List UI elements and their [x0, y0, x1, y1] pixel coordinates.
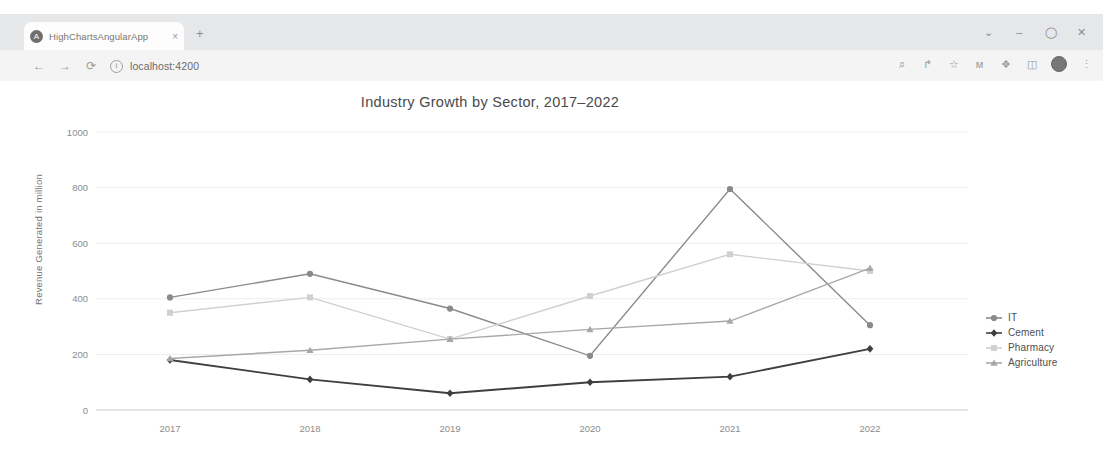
site-info-icon[interactable]: i [110, 60, 123, 73]
x-tick-label: 2018 [299, 423, 320, 434]
series-line [170, 254, 870, 339]
data-point[interactable] [167, 310, 173, 316]
x-tick-label: 2019 [439, 423, 460, 434]
legend-marker-icon [985, 328, 1003, 338]
legend-marker-icon [985, 358, 1003, 368]
data-point[interactable] [307, 294, 313, 300]
legend-item-pharmacy[interactable]: Pharmacy [985, 340, 1057, 355]
angular-logo-icon: A [30, 30, 43, 43]
window-minimize-button[interactable]: ⌄ [975, 22, 1001, 42]
x-tick-label: 2020 [579, 423, 600, 434]
sidebar-icon[interactable]: ◫ [1025, 58, 1038, 71]
browser-toolbar-icons: ⌕ ↱ ☆ ᴍ ❖ ◫ ⋮ [895, 56, 1093, 72]
plot-area: 02004006008001000 2017201820192020202120… [0, 82, 980, 456]
search-icon[interactable]: ⌕ [895, 58, 908, 71]
extensions-puzzle-icon[interactable]: ❖ [999, 58, 1012, 71]
legend-label: Pharmacy [1008, 342, 1054, 353]
back-button[interactable]: ← [26, 59, 52, 73]
new-tab-button[interactable]: + [196, 27, 204, 40]
reload-button[interactable]: ⟳ [78, 59, 104, 73]
data-point[interactable] [447, 305, 453, 311]
x-tick-label: 2017 [159, 423, 180, 434]
legend-item-agriculture[interactable]: Agriculture [985, 355, 1057, 370]
y-tick-label: 200 [72, 349, 88, 360]
y-tick-label: 400 [72, 293, 88, 304]
analytics-icon[interactable]: ᴍ [973, 58, 986, 71]
close-icon[interactable]: × [172, 31, 178, 42]
series-line [170, 189, 870, 356]
series-layer [166, 186, 873, 397]
data-point[interactable] [167, 294, 173, 300]
series-line [170, 268, 870, 358]
url-text: localhost:4200 [130, 60, 199, 72]
data-point[interactable] [307, 271, 313, 277]
legend-label: Cement [1008, 327, 1044, 338]
browser-tab[interactable]: A HighChartsAngularApp × [24, 22, 184, 50]
data-point[interactable] [587, 353, 593, 359]
y-tick-label: 800 [72, 182, 88, 193]
data-point[interactable] [587, 378, 594, 386]
legend-label: IT [1008, 312, 1017, 323]
data-point[interactable] [447, 390, 454, 398]
share-icon[interactable]: ↱ [921, 58, 934, 71]
data-point[interactable] [307, 376, 314, 384]
legend-label: Agriculture [1008, 357, 1057, 368]
legend-marker-icon [985, 343, 1003, 353]
y-tick-label: 600 [72, 238, 88, 249]
legend-item-it[interactable]: IT [985, 310, 1057, 325]
x-tick-label: 2022 [859, 423, 880, 434]
browser-window: ⌄ – ◯ ✕ A HighChartsAngularApp × + ← → ⟳… [0, 0, 1103, 82]
window-close-button[interactable]: ✕ [1069, 22, 1095, 42]
tab-title: HighChartsAngularApp [49, 31, 168, 42]
bookmark-star-icon[interactable]: ☆ [947, 58, 960, 71]
x-tick-label: 2021 [719, 423, 740, 434]
series-line [170, 349, 870, 393]
data-point[interactable] [727, 186, 733, 192]
y-axis-tick-labels: 02004006008001000 [67, 127, 88, 416]
data-point[interactable] [727, 373, 734, 381]
data-point[interactable] [587, 293, 593, 299]
data-point[interactable] [867, 322, 873, 328]
y-tick-label: 1000 [67, 127, 88, 138]
forward-button[interactable]: → [52, 59, 78, 73]
window-restore-button[interactable]: – [1006, 22, 1032, 42]
profile-avatar[interactable] [1051, 56, 1067, 72]
legend-marker-icon [985, 313, 1003, 323]
chart-legend: ITCementPharmacyAgriculture [985, 310, 1057, 370]
window-maximize-button[interactable]: ◯ [1038, 22, 1064, 42]
data-point[interactable] [727, 251, 733, 257]
data-point[interactable] [866, 265, 873, 271]
chart-container: Industry Growth by Sector, 2017–2022 Rev… [0, 82, 1103, 456]
window-controls: ⌄ – ◯ ✕ [975, 22, 1095, 42]
y-tick-label: 0 [83, 405, 88, 416]
data-point[interactable] [867, 345, 874, 353]
overflow-menu-icon[interactable]: ⋮ [1080, 58, 1093, 71]
legend-item-cement[interactable]: Cement [985, 325, 1057, 340]
x-axis-tick-labels: 201720182019202020212022 [159, 423, 880, 434]
